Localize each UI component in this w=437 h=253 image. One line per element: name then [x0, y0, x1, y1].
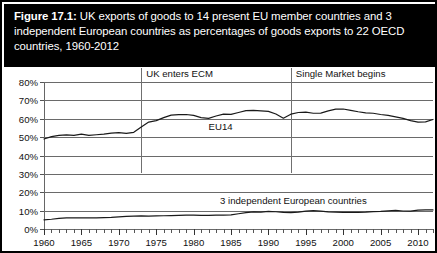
series-line-independent	[44, 210, 433, 220]
series-lines	[4, 67, 437, 253]
figure-title-banner: Figure 17.1: UK exports of goods to 14 p…	[4, 4, 437, 67]
figure-number: Figure 17.1:	[14, 10, 77, 22]
page-title: Figure 17.1: UK exports of goods to 14 p…	[14, 9, 427, 55]
series-label-independent: 3 independent European countries	[218, 195, 369, 206]
series-line-eu14	[44, 109, 433, 139]
series-label-eu14: EU14	[207, 121, 235, 132]
chart-plot-region: 0%10%20%30%40%50%60%70%80% 1960196519701…	[4, 67, 437, 253]
figure-container: Figure 17.1: UK exports of goods to 14 p…	[0, 0, 437, 253]
